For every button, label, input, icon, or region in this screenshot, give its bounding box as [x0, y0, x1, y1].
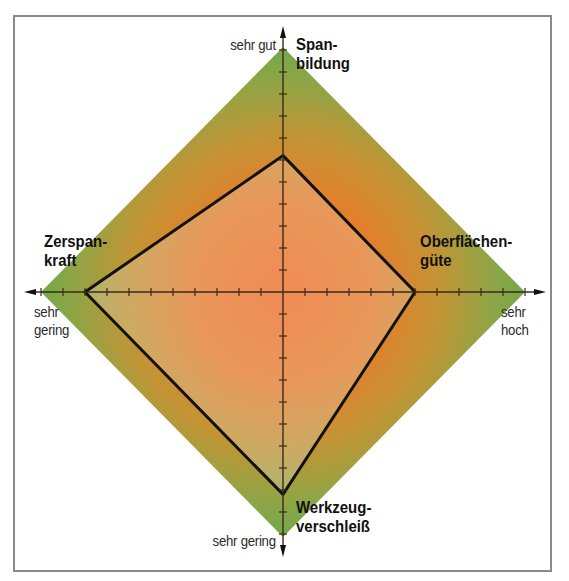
axis-title-spanbildung: Span- bildung [296, 35, 350, 73]
axis-title-line: Span- [296, 35, 350, 54]
right-end-label: sehr hoch [501, 303, 529, 339]
end-label-line: hoch [501, 321, 529, 339]
axis-title-line: Werkzeug- [296, 498, 371, 517]
top-end-label: sehr gut [230, 36, 276, 54]
axis-title-zerspankraft: Zerspan- kraft [44, 232, 107, 270]
axis-title-werkzeugverschleiss: Werkzeug- verschleiß [296, 498, 371, 536]
axis-title-line: güte [420, 251, 512, 270]
end-label-line: sehr [34, 303, 69, 321]
end-label-line: sehr [501, 303, 529, 321]
axis-title-line: Oberflächen- [420, 232, 512, 251]
radar-chart [0, 0, 569, 581]
axis-title-line: bildung [296, 54, 350, 73]
axis-title-oberflaechenguete: Oberflächen- güte [420, 232, 512, 270]
left-end-label: sehr gering [34, 303, 69, 339]
bottom-end-label: sehr gering [213, 532, 276, 550]
axis-title-line: Zerspan- [44, 232, 107, 251]
axis-title-line: kraft [44, 251, 107, 270]
end-label-line: gering [34, 321, 69, 339]
axis-title-line: verschleiß [296, 517, 371, 536]
